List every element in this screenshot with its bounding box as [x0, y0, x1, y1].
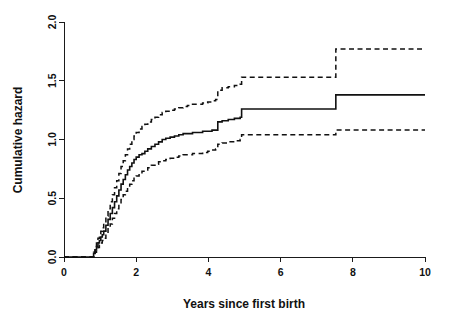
x-tick-label: 2 — [133, 266, 139, 278]
x-axis-title: Years since first birth — [183, 297, 305, 311]
x-tick-label: 0 — [61, 266, 67, 278]
y-tick-label: 1.5 — [46, 73, 58, 88]
y-axis-title: Cumulative hazard — [11, 87, 25, 194]
x-tick-label: 8 — [350, 266, 356, 278]
cumulative-hazard-curve — [64, 95, 425, 257]
y-axis-ticks: 0.00.51.01.52.0 — [46, 15, 64, 265]
y-tick-label: 0.5 — [46, 191, 58, 206]
y-tick-label: 2.0 — [46, 15, 58, 30]
plot-canvas: 0246810 0.00.51.01.52.0 Years since firs… — [0, 0, 453, 322]
confidence-band-curve — [64, 49, 425, 257]
series-layer — [64, 49, 425, 257]
cumulative-hazard-figure: 0246810 0.00.51.01.52.0 Years since firs… — [0, 0, 453, 322]
y-tick-label: 1.0 — [46, 132, 58, 147]
x-tick-label: 6 — [278, 266, 284, 278]
y-tick-label: 0.0 — [46, 250, 58, 265]
x-tick-label: 4 — [205, 266, 211, 278]
x-axis-ticks: 0246810 — [61, 257, 431, 278]
x-tick-label: 10 — [419, 266, 431, 278]
